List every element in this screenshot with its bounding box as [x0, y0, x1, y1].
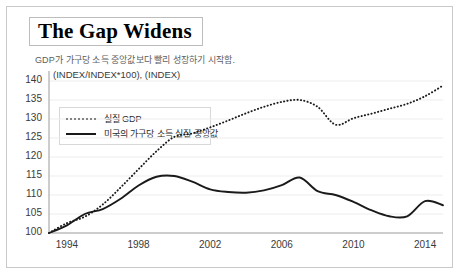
y-axis-tick-135: 135 — [16, 93, 42, 104]
series-line-gdp — [49, 86, 443, 233]
y-axis-tick-140: 140 — [16, 74, 42, 85]
y-axis-tick-120: 120 — [16, 150, 42, 161]
y-axis-tick-110: 110 — [16, 188, 42, 199]
x-axis-tick-1994: 1994 — [47, 239, 87, 250]
x-axis-tick-2010: 2010 — [333, 239, 373, 250]
data-series-layer — [49, 86, 443, 233]
chart-frame: The Gap Widens GDP가 가구당 소득 중앙값보다 빨리 성장하기… — [6, 6, 453, 268]
x-axis-tick-2002: 2002 — [190, 239, 230, 250]
y-axis-tick-100: 100 — [16, 226, 42, 237]
series-line-median-income — [49, 175, 443, 233]
x-axis-tick-1998: 1998 — [119, 239, 159, 250]
y-axis-tick-115: 115 — [16, 169, 42, 180]
y-axis-tick-125: 125 — [16, 131, 42, 142]
gridlines — [49, 81, 443, 214]
y-axis-tick-105: 105 — [16, 207, 42, 218]
x-axis-tick-2006: 2006 — [262, 239, 302, 250]
x-axis-tick-2014: 2014 — [405, 239, 445, 250]
y-axis-tick-130: 130 — [16, 112, 42, 123]
axis-lines — [49, 71, 443, 233]
chart-plot-area — [7, 7, 454, 269]
